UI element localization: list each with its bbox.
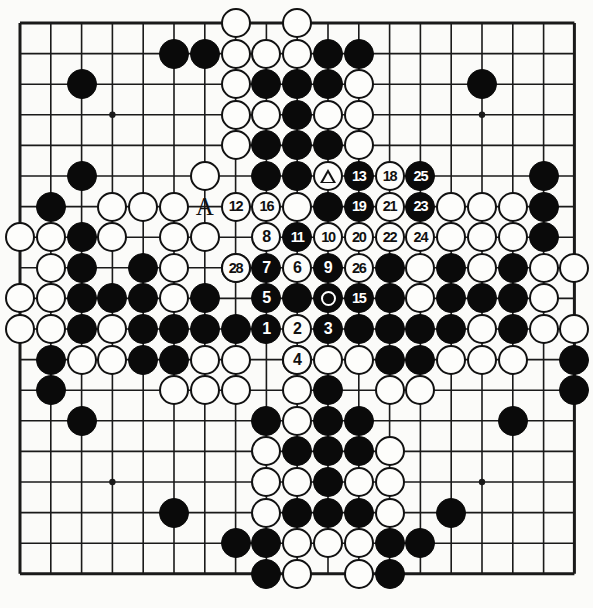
black-stone — [436, 314, 466, 344]
white-stone — [282, 467, 312, 497]
black-stone — [67, 283, 97, 313]
white-stone — [436, 192, 466, 222]
white-stone — [498, 345, 528, 375]
move-number-label: 4 — [293, 351, 301, 367]
black-stone — [313, 498, 343, 528]
black-stone — [282, 161, 312, 191]
white-stone — [97, 192, 127, 222]
black-stone — [67, 222, 97, 252]
white-stone — [159, 375, 189, 405]
white-stone — [313, 528, 343, 558]
white-stone — [282, 39, 312, 69]
black-stone — [405, 345, 435, 375]
white-stone — [405, 253, 435, 283]
move-number-label: 6 — [293, 259, 301, 275]
black-stone — [36, 192, 66, 222]
black-stone — [375, 528, 405, 558]
marked-stone — [313, 161, 343, 191]
move-number-label: 26 — [352, 260, 366, 275]
black-stone — [375, 559, 405, 589]
black-stone — [375, 283, 405, 313]
white-stone — [5, 314, 35, 344]
black-stone — [190, 283, 220, 313]
black-stone — [36, 345, 66, 375]
black-stone — [313, 375, 343, 405]
black-stone — [436, 498, 466, 528]
white-stone — [529, 283, 559, 313]
white-stone — [467, 253, 497, 283]
white-stone — [282, 8, 312, 38]
white-stone — [436, 345, 466, 375]
white-stone — [5, 222, 35, 252]
black-stone — [559, 345, 589, 375]
move-number-label: 7 — [262, 259, 270, 275]
white-stone — [221, 345, 251, 375]
white-stone — [467, 222, 497, 252]
black-stone — [498, 406, 528, 436]
black-stone — [36, 375, 66, 405]
black-stone — [344, 406, 374, 436]
move-number-label: 13 — [352, 168, 366, 183]
move-number-label: 12 — [229, 199, 243, 214]
move-stone-3: 3 — [313, 314, 343, 344]
black-stone — [128, 253, 158, 283]
black-stone — [313, 39, 343, 69]
black-stone — [190, 314, 220, 344]
black-stone — [190, 39, 220, 69]
white-stone — [159, 192, 189, 222]
move-number-label: 25 — [414, 168, 428, 183]
white-stone — [375, 375, 405, 405]
move-stone-22: 22 — [375, 222, 405, 252]
black-stone — [313, 467, 343, 497]
white-stone — [344, 467, 374, 497]
white-stone — [190, 375, 220, 405]
black-stone — [159, 39, 189, 69]
white-stone — [221, 130, 251, 160]
white-stone — [313, 345, 343, 375]
triangle-marker-icon — [320, 169, 336, 183]
move-number-label: 1 — [262, 321, 270, 337]
white-stone — [467, 192, 497, 222]
black-stone — [67, 406, 97, 436]
white-stone — [251, 100, 281, 130]
white-stone — [344, 130, 374, 160]
move-stone-6: 6 — [282, 253, 312, 283]
black-stone — [159, 345, 189, 375]
black-stone — [313, 192, 343, 222]
white-stone — [159, 253, 189, 283]
white-stone — [529, 314, 559, 344]
move-number-label: 22 — [383, 229, 397, 244]
black-stone — [529, 222, 559, 252]
white-stone — [282, 406, 312, 436]
move-number-label: 28 — [229, 260, 243, 275]
move-stone-7: 7 — [251, 253, 281, 283]
white-stone — [344, 528, 374, 558]
black-stone — [221, 314, 251, 344]
white-stone — [344, 559, 374, 589]
move-number-label: 24 — [414, 229, 428, 244]
white-stone — [344, 69, 374, 99]
black-stone — [467, 69, 497, 99]
white-stone — [36, 314, 66, 344]
black-stone — [221, 528, 251, 558]
black-stone — [282, 100, 312, 130]
black-stone — [344, 436, 374, 466]
black-stone — [375, 345, 405, 375]
black-stone — [498, 253, 528, 283]
move-stone-10: 10 — [313, 222, 343, 252]
move-number-label: 10 — [321, 229, 335, 244]
move-stone-13: 13 — [344, 161, 374, 191]
white-stone — [375, 498, 405, 528]
black-stone — [529, 192, 559, 222]
black-stone — [313, 69, 343, 99]
black-stone — [128, 345, 158, 375]
move-stone-18: 18 — [375, 161, 405, 191]
move-number-label: 18 — [383, 168, 397, 183]
move-stone-21: 21 — [375, 192, 405, 222]
black-stone — [498, 314, 528, 344]
white-stone — [190, 161, 220, 191]
move-stone-15: 15 — [344, 283, 374, 313]
black-stone — [67, 69, 97, 99]
black-stone — [159, 314, 189, 344]
move-number-label: 9 — [324, 259, 332, 275]
